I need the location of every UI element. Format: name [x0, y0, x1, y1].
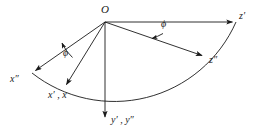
origin-label: O	[101, 4, 109, 15]
rotation-diagram-figure: O x″ x′ , x y′ , y″ z″ z′ ϕ ϕ	[0, 0, 258, 140]
axis-label-x-double-prime: x″	[10, 74, 19, 84]
angle-label-phi-left: ϕ	[63, 48, 68, 58]
angle-arc-phi-right	[152, 34, 163, 39]
axis-label-z-prime: z′	[239, 11, 245, 21]
axis-ray-z-double-prime	[105, 22, 202, 56]
axis-ray-x-prime-x	[67, 22, 106, 85]
angle-label-phi-right: ϕ	[161, 19, 166, 29]
axis-label-x-prime-x: x′ , x	[48, 90, 67, 100]
axis-label-y-prime-y-double-prime: y′ , y″	[111, 115, 134, 125]
axis-label-z-double-prime: z″	[209, 55, 217, 65]
axis-ray-x-double-prime	[36, 22, 106, 71]
